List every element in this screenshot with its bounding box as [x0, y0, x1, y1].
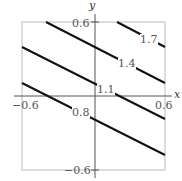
- y-tick-label-max: 0.6: [72, 18, 90, 29]
- contour-label-1.1: 1.1: [97, 84, 115, 95]
- contour-1.1: [22, 47, 165, 119]
- contour-label-0.8: 0.8: [72, 107, 90, 118]
- y-axis-label: y: [89, 0, 95, 11]
- contour-0.8: [22, 83, 165, 155]
- contour-1.4: [46, 22, 165, 83]
- contour-plot: [0, 0, 182, 181]
- x-tick-label-min: −0.6: [12, 100, 39, 111]
- y-tick-label-min: −0.6: [64, 165, 91, 176]
- contour-label-1.4: 1.4: [118, 58, 136, 69]
- x-axis-label: x: [174, 89, 180, 100]
- x-tick-label-max: 0.6: [155, 100, 173, 111]
- contour-label-1.7: 1.7: [140, 34, 158, 45]
